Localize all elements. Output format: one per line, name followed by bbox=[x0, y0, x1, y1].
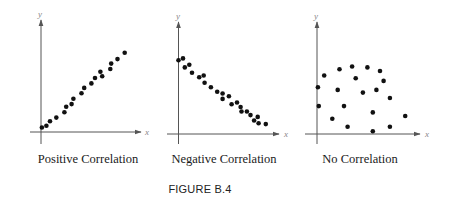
data-point bbox=[371, 110, 376, 115]
data-point bbox=[115, 57, 120, 62]
data-point bbox=[227, 94, 232, 99]
data-point bbox=[245, 109, 250, 114]
data-point bbox=[252, 118, 257, 123]
data-point bbox=[100, 74, 105, 79]
data-points bbox=[176, 56, 268, 126]
data-point bbox=[256, 121, 261, 126]
data-point bbox=[89, 81, 94, 86]
data-point bbox=[337, 67, 342, 72]
data-point bbox=[69, 102, 74, 107]
data-point bbox=[316, 85, 321, 90]
data-point bbox=[342, 104, 347, 109]
data-point bbox=[71, 96, 76, 101]
data-point bbox=[44, 123, 49, 128]
data-point bbox=[248, 113, 253, 118]
data-point bbox=[209, 85, 214, 90]
caption-no-correlation: No Correlation bbox=[322, 152, 397, 167]
data-point bbox=[317, 104, 322, 109]
data-point bbox=[330, 116, 335, 121]
data-point bbox=[187, 62, 192, 67]
data-point bbox=[361, 90, 366, 95]
data-point bbox=[54, 115, 59, 120]
data-point bbox=[183, 65, 188, 70]
data-point bbox=[371, 129, 376, 134]
caption-negative-correlation: Negative Correlation bbox=[171, 152, 276, 167]
data-point bbox=[108, 67, 113, 72]
data-point bbox=[40, 125, 45, 130]
data-point bbox=[201, 73, 206, 78]
data-point bbox=[229, 102, 234, 107]
data-point bbox=[264, 122, 269, 127]
y-axis-label: y bbox=[37, 9, 42, 19]
data-point bbox=[220, 97, 225, 102]
data-point bbox=[381, 79, 386, 84]
panel-negative-correlation: x y bbox=[167, 11, 288, 144]
data-point bbox=[93, 76, 98, 81]
data-point bbox=[62, 110, 67, 115]
data-point bbox=[350, 64, 355, 69]
x-axis-label: x bbox=[283, 129, 288, 139]
data-point bbox=[255, 115, 260, 120]
data-point bbox=[365, 65, 370, 70]
x-axis-label: x bbox=[144, 127, 149, 137]
data-point bbox=[388, 125, 393, 130]
data-point bbox=[239, 109, 244, 114]
data-point bbox=[345, 125, 350, 130]
data-point bbox=[82, 86, 87, 91]
data-point bbox=[64, 105, 69, 110]
data-point bbox=[98, 69, 103, 74]
data-points bbox=[40, 51, 127, 130]
data-point bbox=[235, 100, 240, 105]
figure-label: FIGURE B.4 bbox=[168, 183, 231, 195]
data-point bbox=[238, 105, 243, 110]
data-point bbox=[176, 58, 181, 63]
scatter-plots: x y x y x y bbox=[0, 0, 451, 209]
data-point bbox=[403, 114, 408, 119]
data-point bbox=[197, 75, 202, 80]
data-point bbox=[335, 88, 340, 93]
data-point bbox=[202, 80, 207, 85]
data-point bbox=[190, 71, 195, 76]
data-point bbox=[353, 76, 358, 81]
data-point bbox=[122, 51, 127, 56]
data-point bbox=[48, 119, 53, 124]
data-point bbox=[322, 73, 327, 78]
x-axis-label: x bbox=[424, 129, 429, 139]
data-point bbox=[378, 69, 383, 74]
data-point bbox=[181, 56, 186, 61]
panel-no-correlation: x y bbox=[305, 11, 429, 144]
panel-positive-correlation: x y bbox=[30, 9, 149, 144]
data-point bbox=[109, 61, 114, 66]
figure-b4: x y x y x y Positive Correlation Negativ… bbox=[0, 0, 451, 209]
y-axis-label: y bbox=[313, 11, 318, 21]
y-axis-label: y bbox=[175, 11, 180, 21]
data-point bbox=[79, 91, 84, 96]
data-point bbox=[220, 91, 225, 96]
caption-positive-correlation: Positive Correlation bbox=[38, 152, 138, 167]
data-point bbox=[215, 89, 220, 94]
data-points bbox=[316, 64, 408, 133]
data-point bbox=[374, 88, 379, 93]
data-point bbox=[388, 96, 393, 101]
